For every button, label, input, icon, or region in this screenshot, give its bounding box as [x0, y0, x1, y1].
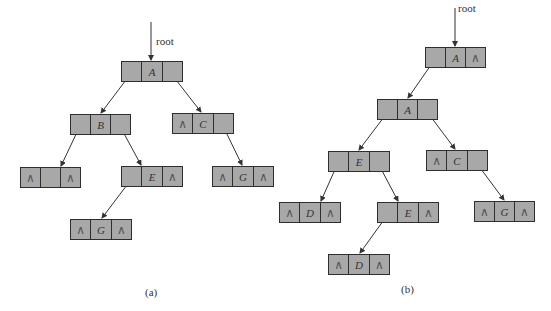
right-pointer-cell: ∧: [321, 203, 340, 222]
left-pointer-cell: ∧: [427, 151, 447, 170]
right-pointer-cell: [370, 152, 389, 171]
tree-node: ∧ C: [172, 113, 234, 134]
right-pointer-cell: [214, 114, 233, 133]
data-cell: E: [349, 152, 369, 171]
right-pointer-cell: ∧: [61, 168, 80, 187]
right-pointer-cell: [468, 151, 487, 170]
left-pointer-cell: ∧: [280, 203, 300, 222]
tree-node: E ∧: [121, 166, 183, 187]
data-cell: G: [91, 220, 111, 239]
data-cell: A: [398, 100, 418, 119]
root-label-a: root: [156, 35, 174, 47]
right-pointer-cell: ∧: [370, 255, 389, 274]
tree-node: ∧ ∧: [20, 167, 81, 188]
left-pointer-cell: ∧: [21, 168, 41, 187]
tree-node: ∧ G ∧: [70, 219, 132, 240]
tree-node: ∧ D ∧: [328, 254, 390, 275]
right-pointer-cell: [163, 62, 182, 81]
left-pointer-cell: ∧: [71, 220, 91, 239]
tree-node: A ∧: [425, 47, 486, 68]
left-pointer-cell: [122, 62, 142, 81]
data-cell: E: [142, 167, 162, 186]
tree-node: ∧ G ∧: [212, 166, 274, 187]
data-cell: D: [300, 203, 320, 222]
tree-node: A: [121, 61, 183, 82]
tree-node: A: [377, 99, 438, 120]
data-cell: D: [349, 255, 369, 274]
tree-node: ∧ G ∧: [474, 201, 535, 222]
right-pointer-cell: [418, 100, 437, 119]
right-pointer-cell: ∧: [419, 203, 438, 222]
left-pointer-cell: [122, 167, 142, 186]
caption-b: (b): [401, 283, 414, 295]
tree-node: B: [70, 114, 131, 135]
data-cell: C: [193, 114, 213, 133]
data-cell: E: [398, 203, 418, 222]
left-pointer-cell: ∧: [213, 167, 233, 186]
left-pointer-cell: ∧: [173, 114, 193, 133]
right-pointer-cell: ∧: [515, 202, 534, 221]
left-pointer-cell: [378, 100, 398, 119]
data-cell: A: [446, 48, 466, 67]
data-cell: A: [142, 62, 162, 81]
right-pointer-cell: [111, 115, 130, 134]
tree-node: E: [328, 151, 390, 172]
data-cell: [41, 168, 61, 187]
diagram-canvas: root root A B ∧ C ∧ ∧ E ∧ ∧ G ∧ ∧ G ∧ A …: [0, 0, 551, 311]
left-pointer-cell: [71, 115, 91, 134]
left-pointer-cell: ∧: [475, 202, 495, 221]
left-pointer-cell: [378, 203, 398, 222]
right-pointer-cell: ∧: [112, 220, 131, 239]
data-cell: G: [233, 167, 253, 186]
data-cell: C: [447, 151, 467, 170]
data-cell: G: [495, 202, 515, 221]
tree-node: E ∧: [377, 202, 439, 223]
right-pointer-cell: ∧: [466, 48, 485, 67]
left-pointer-cell: [426, 48, 446, 67]
right-pointer-cell: ∧: [163, 167, 182, 186]
root-label-b: root: [458, 2, 476, 14]
caption-a: (a): [145, 286, 157, 298]
right-pointer-cell: ∧: [254, 167, 273, 186]
data-cell: B: [91, 115, 111, 134]
left-pointer-cell: [329, 152, 349, 171]
tree-node: ∧ C: [426, 150, 488, 171]
left-pointer-cell: ∧: [329, 255, 349, 274]
tree-node: ∧ D ∧: [279, 202, 341, 223]
